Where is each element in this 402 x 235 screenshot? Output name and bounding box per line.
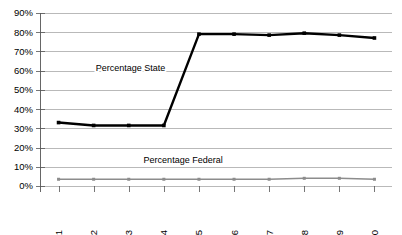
y-axis-tick-labels: 0%10%20%30%40%50%60%70%80%90% xyxy=(14,7,34,191)
series-data-point xyxy=(232,32,236,36)
series-data-point xyxy=(233,178,236,181)
chart-canvas: 0%10%20%30%40%50%60%70%80%90% 1991199219… xyxy=(0,0,402,235)
series-data-point xyxy=(303,177,306,180)
x-axis-tick-label: 1996 xyxy=(229,230,240,235)
y-axis-tick-label: 0% xyxy=(19,180,33,191)
series-data-point xyxy=(197,178,200,181)
series-label-percentage-federal: Percentage Federal xyxy=(144,155,223,165)
series-data-point xyxy=(267,33,271,37)
x-axis-tick-label: 1998 xyxy=(299,230,310,235)
y-axis-tick-label: 40% xyxy=(14,104,34,115)
x-axis-tick-labels: 1991199219931994199519961997199819992000 xyxy=(53,230,380,235)
y-axis-tick-label: 60% xyxy=(14,65,34,76)
x-axis-tick-label: 1991 xyxy=(53,230,64,235)
series-data-point xyxy=(92,124,96,128)
series-data-point xyxy=(92,178,95,181)
series-data-point xyxy=(162,178,165,181)
series-data-point xyxy=(127,124,131,128)
series-data-point xyxy=(338,33,342,37)
x-axis-tick-label: 1997 xyxy=(264,230,275,235)
y-axis-tick-label: 90% xyxy=(14,7,34,18)
y-axis-tick-label: 70% xyxy=(14,46,34,57)
series-data-point xyxy=(127,178,130,181)
line-chart: 0%10%20%30%40%50%60%70%80%90% 1991199219… xyxy=(0,0,402,235)
x-axis-tick-label: 1993 xyxy=(123,230,134,235)
x-axis-tick-label: 1994 xyxy=(158,230,169,235)
series-annotations: Percentage StatePercentage StatePercenta… xyxy=(96,63,223,165)
series-line xyxy=(59,178,375,179)
series-data-point xyxy=(268,178,271,181)
series-data-point xyxy=(162,124,166,128)
series-data-point xyxy=(57,178,60,181)
y-axis-tick-label: 80% xyxy=(14,27,34,38)
series-data-point xyxy=(373,36,377,40)
y-axis-tick-label: 50% xyxy=(14,84,34,95)
series-data-point xyxy=(338,177,341,180)
series-data-point xyxy=(197,32,201,36)
y-axis-tick-label: 30% xyxy=(14,123,34,134)
x-axis-tick-label: 1992 xyxy=(88,230,99,235)
x-axis-tick-label: 2000 xyxy=(369,230,380,235)
y-axis-tick-label: 20% xyxy=(14,142,34,153)
series-data-point xyxy=(302,31,306,35)
series-data-point xyxy=(57,121,61,125)
series-data-point xyxy=(373,178,376,181)
x-axis-tick-label: 1995 xyxy=(193,230,204,235)
x-axis-tick-label: 1999 xyxy=(334,230,345,235)
series-label-percentage-state: Percentage State xyxy=(96,63,166,73)
series-line xyxy=(59,33,375,125)
y-axis-tick-label: 10% xyxy=(14,161,34,172)
